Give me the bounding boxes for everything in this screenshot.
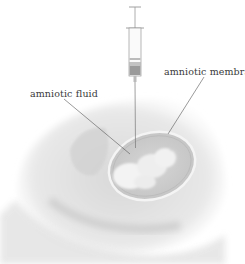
label-amniotic-membranes: amniotic membranes [164,66,245,77]
needle [135,82,136,148]
syringe [126,7,144,82]
label-amniotic-fluid: amniotic fluid [30,88,98,99]
illustration [0,0,245,264]
amniocentesis-diagram: amniotic fluid amniotic membranes [0,0,245,264]
